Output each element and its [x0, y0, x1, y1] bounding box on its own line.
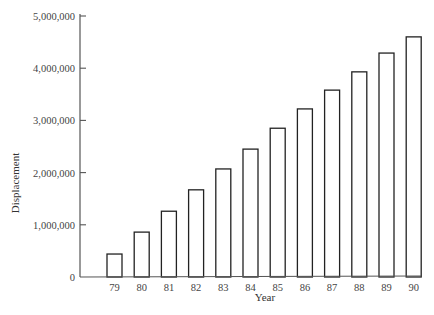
x-tick-label: 90 [408, 282, 419, 293]
bar-82 [189, 190, 204, 277]
x-tick-label: 88 [354, 282, 365, 293]
x-tick-label: 80 [136, 282, 147, 293]
bar-86 [297, 109, 312, 277]
bar-chart: 01,000,0002,000,0003,000,0004,000,0005,0… [0, 0, 434, 315]
bar-81 [161, 211, 176, 277]
x-tick-label: 87 [327, 282, 338, 293]
y-tick-label: 5,000,000 [33, 11, 75, 22]
bar-89 [379, 53, 394, 277]
bar-85 [270, 128, 285, 277]
bars [107, 37, 421, 277]
bar-87 [325, 90, 340, 277]
y-axis: 01,000,0002,000,0003,000,0004,000,0005,0… [33, 11, 86, 283]
bar-84 [243, 149, 258, 277]
bar-79 [107, 254, 122, 277]
bar-80 [134, 232, 149, 277]
x-tick-label: 86 [300, 282, 311, 293]
x-tick-label: 81 [164, 282, 175, 293]
y-axis-title: Displacement [9, 153, 21, 213]
y-tick-label: 1,000,000 [33, 220, 75, 231]
bar-83 [216, 169, 231, 277]
y-tick-label: 4,000,000 [33, 63, 75, 74]
x-tick-label: 89 [381, 282, 392, 293]
x-tick-label: 82 [191, 282, 202, 293]
y-tick-label: 3,000,000 [33, 115, 75, 126]
x-axis-title: Year [255, 291, 276, 303]
y-tick-label: 2,000,000 [33, 168, 75, 179]
x-tick-label: 79 [109, 282, 120, 293]
bar-90 [406, 37, 421, 277]
y-tick-label: 0 [70, 272, 75, 283]
x-axis: 798081828384858687888990 [80, 276, 421, 293]
x-axis-line [80, 276, 421, 277]
x-tick-label: 83 [218, 282, 229, 293]
bar-88 [352, 72, 367, 277]
